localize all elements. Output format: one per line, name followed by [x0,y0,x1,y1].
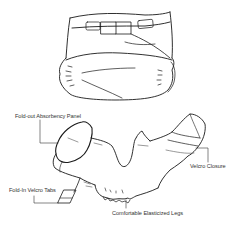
open-diaper-drawing [53,114,205,203]
label-elastic-legs: Comfortable Elasticized Legs [112,211,183,217]
label-absorbency-panel: Fold-out Absorbency Panel [15,114,81,120]
label-velcro-tabs: Fold-In Velcro Tabs [9,188,56,194]
closed-diaper-drawing [59,12,175,100]
label-velcro-closure: Velcro Closure [190,164,226,170]
diaper-diagram: Fold-out Absorbency Panel Velcro Closure… [0,0,237,235]
callout-lines [34,120,208,208]
